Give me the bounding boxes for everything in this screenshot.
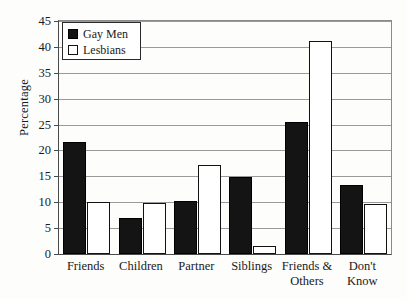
bar-children-gay-men <box>119 218 142 254</box>
bar-friends-others-lesbians <box>309 41 332 254</box>
y-axis-tick-label: 15 <box>39 169 52 184</box>
bar-partner-lesbians <box>198 165 221 254</box>
y-axis-tick-label: 10 <box>39 195 52 210</box>
x-axis-category-label: Children <box>113 259 168 274</box>
gridline <box>59 73 391 74</box>
chart-legend: Gay Men Lesbians <box>62 22 141 60</box>
x-axis-category-label: Partner <box>169 259 224 274</box>
y-axis-tick <box>54 254 59 255</box>
gridline <box>59 99 391 100</box>
y-axis-tick <box>54 47 59 48</box>
y-axis-label: Percentage <box>17 48 32 168</box>
y-axis-tick <box>54 176 59 177</box>
bar-partner-gay-men <box>174 201 197 254</box>
gridline <box>59 150 391 151</box>
legend-item-lesbians: Lesbians <box>68 42 136 58</box>
x-axis-category-label: Don't Know <box>335 259 390 288</box>
y-axis-tick-label: 40 <box>39 39 52 54</box>
legend-item-gay-men: Gay Men <box>68 26 136 42</box>
y-axis-tick-label: 5 <box>45 221 51 236</box>
x-axis-category-label: Friends <box>58 259 113 274</box>
bar-children-lesbians <box>143 203 166 254</box>
bar-chart-figure: Percentage 051015202530354045 FriendsChi… <box>0 0 407 299</box>
y-axis-tick <box>54 228 59 229</box>
bar-don-t-know-gay-men <box>340 185 363 254</box>
y-axis-tick <box>54 21 59 22</box>
y-axis-tick-label: 0 <box>45 247 51 262</box>
legend-label: Gay Men <box>83 27 128 42</box>
y-axis-tick-label: 45 <box>39 14 52 29</box>
y-axis-tick <box>54 125 59 126</box>
x-axis-category-label: Siblings <box>224 259 279 274</box>
legend-label: Lesbians <box>83 43 126 58</box>
bar-don-t-know-lesbians <box>364 204 387 254</box>
gridline <box>59 176 391 177</box>
bar-friends-lesbians <box>87 202 110 254</box>
x-axis-category-label: Friends & Others <box>279 259 334 288</box>
legend-swatch-filled-square-icon <box>68 29 78 39</box>
y-axis-tick <box>54 99 59 100</box>
y-axis-tick <box>54 73 59 74</box>
y-axis-tick-label: 35 <box>39 65 52 80</box>
y-axis-tick-label: 25 <box>39 117 52 132</box>
gridline <box>59 125 391 126</box>
y-axis-tick-label: 20 <box>39 143 52 158</box>
y-axis-tick-label: 30 <box>39 91 52 106</box>
bar-friends-others-gay-men <box>285 122 308 254</box>
bar-friends-gay-men <box>63 142 86 254</box>
y-axis-tick <box>54 150 59 151</box>
legend-swatch-outlined-square-icon <box>68 45 78 55</box>
y-axis-tick <box>54 202 59 203</box>
bar-siblings-gay-men <box>229 177 252 254</box>
bar-siblings-lesbians <box>253 246 276 254</box>
